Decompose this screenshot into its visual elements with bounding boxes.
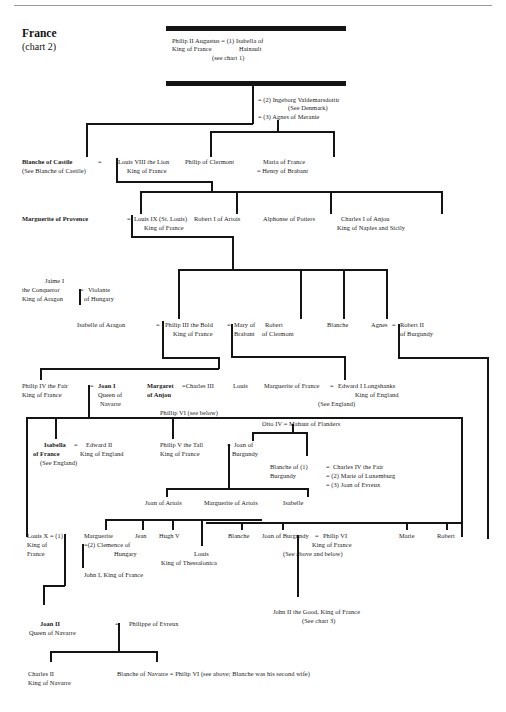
page-header-rule [14,5,492,6]
node-philip2-line2b: Hainault [239,45,262,53]
connector-charles1-anjou-down [441,191,443,214]
connector-philip6-john2-down [297,535,299,597]
marriage-equals-philip4: = [90,382,94,390]
node-blanche-gen9: Blanche [228,532,249,540]
marriage-equals-marguerite-edward1: = [330,382,334,390]
connector-gen4-horizontal [140,191,442,193]
node-philip6-line2: King of France [312,541,352,549]
connector-joan-artois-down [166,488,168,497]
node-isabelle-gen8: Isabelle [283,499,303,507]
marriage-equals-jaime: = [80,286,84,294]
node-maria-france-line2: = Henry of Brabant [257,167,308,175]
connector-philip-clermont-down [210,131,212,157]
node-blanche-burgundy-line1: Blanche of (1) [270,463,308,471]
connector-marguerite-france-down [344,356,346,380]
connector-isabella-down [55,417,57,439]
connector-agnes-gen5-down [386,269,388,319]
connector-louis9-children-stem [131,236,233,238]
node-marguerite-gen9: Marguerite [84,532,113,540]
top-rule-bar-upper [166,26,346,31]
marriage-equals-blanche: = [98,158,102,166]
node-joan2-line1: Joan II [40,620,60,628]
node-jaime1-line3: King of Aragon [22,295,63,303]
connector-joan2-marriage-down [118,623,120,652]
node-louis8-line2: King of France [127,167,167,175]
node-maria-france-line1: Maria of France [263,158,305,166]
connector-gen11-horizontal [50,651,157,653]
node-clemence-line2: Hungary [114,550,137,558]
connector-joan-burgundy-w-down [252,432,254,441]
connector-jaime-marriage [79,289,81,305]
node-blanche-navarre: Blanche of Navarre = Philip VI (see abov… [117,670,310,678]
node-robert1-artois: Robert I of Artois [194,215,240,223]
marriage-equals-isabelle-aragon: = [156,321,160,329]
node-philip6-line3: (See above and below) [283,550,343,558]
node-robert2-burgundy-line1: Robert II [400,321,424,329]
connector-blanche-navarre-down [156,651,158,662]
node-margaret-line2: of Anjou [147,391,171,399]
connector-robert-clermont-down [300,269,302,319]
connector-robert2-burgundy-down [398,324,400,358]
connector-blanche-gen9-down [241,522,243,530]
node-joan-artois: Joan of Artois [145,499,182,507]
node-charles1-anjou-line1: Charles I of Anjou [341,215,390,223]
node-philip4-line1: Philip IV the Fair [22,382,68,390]
node-jean-gen9: Jean [135,532,147,540]
node-charles2-line2: King of Navarre [28,679,71,687]
node-joan-burgundy-w-line2: Burgundy [232,450,258,458]
node-edward1-line1: Edward I Longshanks [338,382,395,390]
connector-robert1-artois-down [236,191,238,214]
node-edward2-line2: King of England [80,450,124,458]
node-philip2-seechart1: (see chart 1) [212,54,244,62]
node-philip4-line2: King of France [22,391,62,399]
node-philip6-line1: Philip VI [323,532,347,540]
connector-gen8-horizontal [166,488,308,490]
node-joan-burgundy2: Joan of Burgundy [262,532,309,540]
node-violante-line1: Violante [88,286,110,294]
connector-louis9-marriage [131,215,133,237]
connector-burgundy-rail-horizontal [398,357,488,359]
connector-hugh5-down [172,519,174,530]
genealogy-chart-page: France (chart 2) Philip II Augustus = (1… [0,0,506,712]
connector-marie-down [406,522,408,530]
node-robert-clermont-line1: Robert [265,321,283,329]
node-louis10-line3: France [27,550,45,558]
node-ingeborg-line1: = (2) Ingeborg Valdemarsdottir [258,96,339,104]
connector-louis10-marriage-down [64,534,66,586]
page-subtitle: (chart 2) [22,41,56,53]
node-agnes-meranie: = (3) Agnes of Meranie [258,113,319,121]
node-louis9-line1: Louis IX (St. Louis) [134,215,187,223]
node-louis10-line1: Louis X = (1) [27,532,63,540]
connector-gen9-right-horizontal [206,522,462,524]
connector-alphonse-potiers-down [330,191,332,214]
node-alphonse-potiers: Alphonse of Potiers [263,215,315,223]
node-edward1-line3: (See England) [318,400,355,408]
node-isabella-line1: Isabella [44,441,66,449]
connector-gen7-left-rail [26,417,28,537]
node-louis8-line1: Louis VIII the Lion [118,158,169,166]
node-isabella-line2: of France [33,450,60,458]
connector-philip3-marriage-down [162,321,164,358]
connector-otto4-children [252,432,307,434]
node-philip3-line2: King of France [173,330,213,338]
node-blanche-burgundy-line2: Burgundy [270,472,296,480]
node-louis9-line2: King of France [144,224,184,232]
node-margaret-line1: Margaret [147,382,174,390]
connector-jean-down [142,519,144,530]
node-john2-line2: (See chart 3) [302,617,335,625]
node-louis-thessalonica-line1: Louis [194,550,209,558]
node-louis-gen6: Louis [233,382,248,390]
node-philip2-line2a: King of France [172,45,212,53]
connector-philip4-down [40,368,42,380]
marriage-equals-isabella-edward2: = [74,441,78,449]
node-violante-line2: of Hungary [84,295,114,303]
node-philip-clermont: Philip of Clermont [185,158,234,166]
marriage-equals-joan-philip6: = [315,532,319,540]
node-jaime1-line2: the Conqueror [22,286,60,294]
node-joan-burgundy-w-line1: Joan of [234,441,253,449]
page-title: France [22,27,56,40]
connector-mary-brabant-down [231,324,233,357]
node-charles2-line1: Charles II [28,670,54,678]
node-blanche-gen5: Blanche [327,321,348,329]
connector-philip4-marriage-down [88,385,90,417]
